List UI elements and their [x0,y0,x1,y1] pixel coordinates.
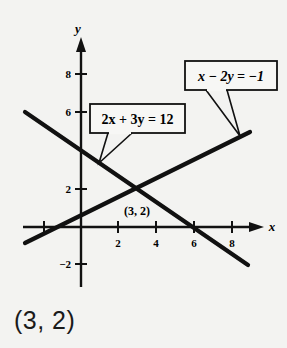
x-tick-8: 8 [229,237,235,249]
intersection-label: (3, 2) [124,204,150,218]
x-axis-arrow-icon [249,222,264,232]
y-axis-arrow-icon [76,37,86,52]
callout-label-x-minus-2y: x − 2y = −1 [197,69,264,84]
y-tick-6: 6 [66,106,72,118]
y-axis-label: y [73,21,81,36]
callout-label-2x-plus-3y: 2x + 3y = 12 [102,112,174,127]
x-tick-4: 4 [153,237,159,249]
y-tick-2: 2 [66,183,72,195]
callout-x-minus-2y: x − 2y = −1 [185,61,277,136]
x-axis-label: x [268,219,276,234]
callout-2x-plus-3y: 2x + 3y = 12 [90,104,185,163]
x-tick-2: 2 [115,237,121,249]
graph-figure: y 8 6 2 −2 x 2 4 6 8 2x + 3y = 12 [0,0,287,348]
x-tick-6: 6 [191,237,197,249]
answer-text: (3, 2) [14,306,75,335]
y-tick-8: 8 [66,68,72,80]
y-tick-neg2: −2 [59,258,71,270]
